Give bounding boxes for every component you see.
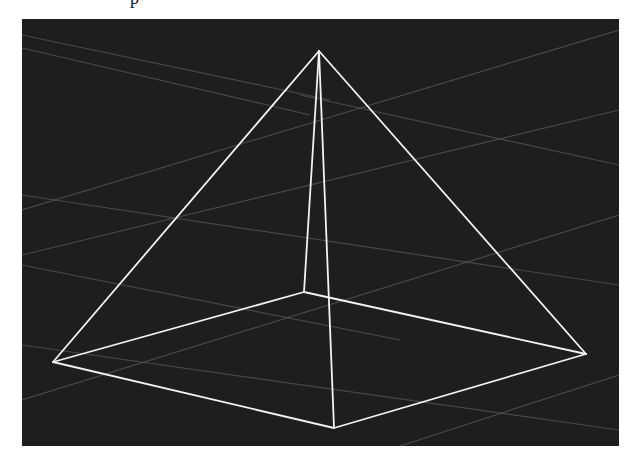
grid-line xyxy=(22,48,310,115)
wireframe-scene xyxy=(22,19,619,446)
caption-text-fragment: p xyxy=(130,0,139,7)
grid-line xyxy=(22,195,619,285)
grid-line xyxy=(300,95,619,165)
grid-line xyxy=(400,375,619,446)
pyramid-edge-apex-base_front xyxy=(319,51,334,428)
pyramid-edge-base_back-base_right xyxy=(304,292,586,354)
3d-viewport xyxy=(22,19,619,446)
pyramid-edge-base_right-base_front xyxy=(334,354,586,428)
pyramid-edge-apex-base_left xyxy=(53,51,319,362)
grid-line xyxy=(22,215,619,400)
grid-line xyxy=(22,345,619,430)
pyramid-edge-base_front-base_left xyxy=(53,362,334,428)
pyramid-edge-apex-base_right xyxy=(319,51,586,354)
pyramid-edge-apex-base_back xyxy=(304,51,319,292)
grid-line xyxy=(22,265,400,340)
grid-line xyxy=(22,35,330,100)
